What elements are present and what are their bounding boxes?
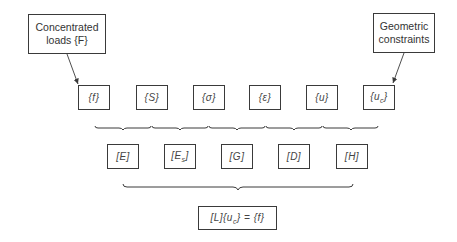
arrow-loads-to-f <box>67 54 78 84</box>
concentrated-loads-box: Concentrated loads {F} <box>28 14 106 54</box>
vector-S-box: {S} <box>136 85 168 110</box>
vector-u-box: {u} <box>306 85 338 110</box>
vector-epsilon-box: {ε} <box>249 85 281 110</box>
geometric-constraints-box: Geometric constraints <box>373 13 435 53</box>
vector-f-box: {f} <box>78 85 110 110</box>
matrix-D-box: [D] <box>278 144 310 169</box>
vector-uc-box: {uc} <box>363 85 395 110</box>
matrix-E-box: [E] <box>107 144 139 169</box>
arrow-constraints-to-uc <box>393 53 404 83</box>
row1-braces <box>95 126 378 130</box>
matrix-Es-box: [Es] <box>164 144 196 169</box>
row2-brace <box>123 184 353 190</box>
matrix-H-box: [H] <box>336 144 368 169</box>
vector-sigma-box: {σ} <box>193 85 225 110</box>
system-equation-box: [L]{uc} = {f} <box>198 206 277 230</box>
matrix-G-box: [G] <box>221 144 253 169</box>
